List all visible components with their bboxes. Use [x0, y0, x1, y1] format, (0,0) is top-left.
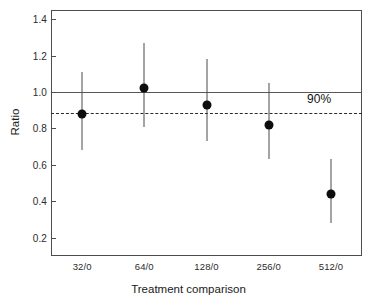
y-axis-tick-label: 0.2	[33, 232, 47, 243]
x-axis-tick-label: 64/0	[135, 261, 154, 272]
ninety-percent-label: 90%	[307, 92, 331, 106]
y-axis-tick-label: 0.8	[33, 123, 47, 134]
y-axis-tick-label: 1.4	[33, 14, 47, 25]
data-point-marker	[140, 84, 149, 93]
y-axis-tick-label: 1.0	[33, 87, 47, 98]
y-axis-tick-label: 0.4	[33, 196, 47, 207]
y-axis-tick-labels: 0.20.40.60.81.01.21.4	[0, 0, 47, 307]
y-axis-tick-mark	[51, 56, 56, 57]
y-axis-tick-mark	[51, 19, 56, 20]
y-axis-tick-mark	[51, 92, 56, 93]
chart-figure: Ratio 0.20.40.60.81.01.21.4 Treatment co…	[0, 0, 377, 307]
data-point-marker	[326, 190, 335, 199]
y-axis-tick-label: 0.6	[33, 159, 47, 170]
plot-area	[51, 10, 362, 256]
x-axis-tick-label: 512/0	[319, 261, 343, 272]
x-axis-tick-label: 128/0	[194, 261, 218, 272]
data-point-marker	[202, 100, 211, 109]
x-axis-tick-label: 32/0	[73, 261, 92, 272]
data-point-marker	[264, 120, 273, 129]
x-axis-tick-label: 256/0	[257, 261, 281, 272]
y-axis-tick-label: 1.2	[33, 50, 47, 61]
y-axis-tick-mark	[51, 201, 56, 202]
y-axis-tick-mark	[51, 128, 56, 129]
y-axis-tick-mark	[51, 165, 56, 166]
y-axis-tick-mark	[51, 238, 56, 239]
x-axis-title: Treatment comparison	[0, 283, 377, 295]
data-point-marker	[78, 109, 87, 118]
